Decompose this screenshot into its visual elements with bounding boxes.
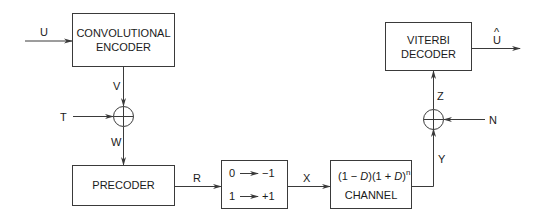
label-z: Z bbox=[437, 90, 444, 102]
map-in-1: 1 bbox=[229, 190, 235, 202]
map-in-0: 0 bbox=[229, 167, 235, 179]
label-t: T bbox=[60, 111, 67, 123]
label-w: W bbox=[111, 136, 122, 148]
decoder-text-1: VITERBI bbox=[407, 34, 450, 46]
map-out-neg1: −1 bbox=[262, 167, 275, 179]
convolutional-encoder-block bbox=[73, 14, 175, 67]
decoder-text-2: DECODER bbox=[401, 48, 456, 60]
encoder-text-2: ENCODER bbox=[96, 41, 151, 53]
label-u: U bbox=[40, 26, 48, 38]
y-signal-path bbox=[412, 129, 434, 187]
viterbi-decoder-block bbox=[386, 23, 472, 71]
precoder-text: PRECODER bbox=[92, 179, 154, 191]
label-v: V bbox=[113, 80, 121, 92]
label-n: N bbox=[489, 114, 497, 126]
map-out-pos1: +1 bbox=[262, 190, 275, 202]
label-y: Y bbox=[438, 153, 446, 165]
label-r: R bbox=[193, 172, 201, 184]
label-x: X bbox=[303, 172, 311, 184]
channel-transfer-function: (1 − D)(1 + D)n bbox=[338, 168, 410, 182]
channel-text: CHANNEL bbox=[345, 189, 398, 201]
channel-block bbox=[331, 161, 412, 209]
block-diagram: U CONVOLUTIONAL ENCODER V T W PRECODER R… bbox=[0, 0, 541, 222]
encoder-text-1: CONVOLUTIONAL bbox=[76, 27, 170, 39]
label-u-hat: U bbox=[493, 34, 501, 46]
